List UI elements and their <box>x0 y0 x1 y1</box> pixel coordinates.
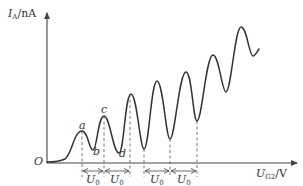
x-axis-unit: /V <box>275 167 287 180</box>
interval-subscript: 0 <box>159 179 163 186</box>
diagram-canvas <box>0 0 303 186</box>
interval-label-4: U0 <box>177 174 191 186</box>
dashed-guides <box>82 94 197 177</box>
interval-label-2: U0 <box>110 174 124 186</box>
point-label-c: c <box>101 104 107 115</box>
interval-label-3: U0 <box>150 174 164 186</box>
current-curve <box>47 27 259 162</box>
origin-label: O <box>34 156 43 167</box>
interval-subscript: 0 <box>186 179 190 186</box>
x-axis-subscript: G2 <box>265 173 275 181</box>
interval-symbol: U <box>110 173 119 186</box>
y-axis-label: IA/nA <box>8 8 36 21</box>
interval-symbol: U <box>150 173 159 186</box>
interval-subscript: 0 <box>95 179 99 186</box>
x-axis-symbol: U <box>256 167 265 180</box>
point-label-b: b <box>93 146 100 157</box>
y-axis-unit: /nA <box>17 7 36 20</box>
interval-label-1: U0 <box>86 174 100 186</box>
interval-subscript: 0 <box>119 179 123 186</box>
point-label-a: a <box>79 120 86 131</box>
interval-symbol: U <box>177 173 186 186</box>
franck-hertz-diagram: IA/nA UG2/V O a b c d U0 U0 U0 U0 <box>0 0 303 186</box>
x-axis-label: UG2/V <box>256 168 287 181</box>
point-label-d: d <box>119 148 126 159</box>
interval-symbol: U <box>86 173 95 186</box>
